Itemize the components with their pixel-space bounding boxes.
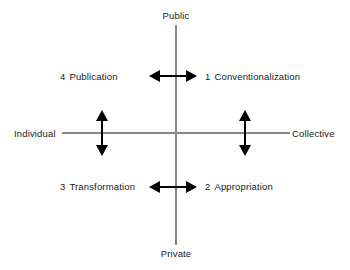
arrow-head-right-icon — [186, 70, 197, 82]
quadrant-number-3: 3 — [60, 181, 65, 192]
quadrant-number-4: 4 — [60, 71, 65, 82]
arrow-shaft — [158, 75, 188, 77]
quadrant-text-2: Appropriation — [214, 181, 272, 192]
quadrant-label-3: 3Transformation — [60, 181, 135, 192]
arrow-shaft — [101, 119, 103, 147]
quadrant-text-4: Publication — [69, 71, 117, 82]
left-vertical-double-arrow-icon — [96, 110, 108, 156]
quadrant-text-3: Transformation — [69, 181, 135, 192]
quadrant-label-4: 4Publication — [60, 71, 118, 82]
axis-label-individual: Individual — [14, 128, 56, 139]
arrow-head-down-icon — [239, 145, 251, 156]
quadrant-number-1: 1 — [205, 71, 210, 82]
axis-label-collective: Collective — [292, 128, 335, 139]
arrow-head-right-icon — [186, 181, 197, 193]
arrow-head-down-icon — [96, 145, 108, 156]
right-vertical-double-arrow-icon — [239, 110, 251, 156]
arrow-shaft — [158, 186, 188, 188]
quadrant-label-2: 2Appropriation — [205, 181, 273, 192]
axis-label-public: Public — [163, 10, 190, 21]
vertical-axis-line — [175, 25, 177, 245]
quadrant-number-2: 2 — [205, 181, 210, 192]
bottom-horizontal-double-arrow-icon — [149, 181, 197, 193]
top-horizontal-double-arrow-icon — [149, 70, 197, 82]
axis-label-private: Private — [161, 248, 192, 259]
diagram-canvas: Public Private Individual Collective 4Pu… — [0, 0, 350, 270]
quadrant-label-1: 1Conventionalization — [205, 71, 300, 82]
quadrant-text-1: Conventionalization — [214, 71, 300, 82]
arrow-shaft — [244, 119, 246, 147]
